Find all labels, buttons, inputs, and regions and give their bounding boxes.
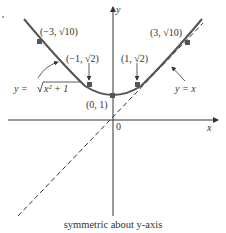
point-3 <box>185 40 190 45</box>
caption: symmetric about y-axis <box>64 219 163 230</box>
origin-label: 0 <box>116 121 121 132</box>
graph-diagram: (−3, √10) (−1, √2) (0, 1) (1, √2) (3, √1… <box>0 0 226 233</box>
curve-eq-lhs: y = <box>13 83 28 94</box>
pointer-line-eq <box>172 67 185 81</box>
curve-eq-rad: x² + 1 <box>43 83 68 94</box>
label-p5: (3, √10) <box>150 27 182 39</box>
y-axis-label: y <box>115 4 121 15</box>
label-p3: (0, 1) <box>86 99 108 111</box>
pointer-curve-eq <box>38 62 58 78</box>
label-p4: (1, √2) <box>121 53 148 65</box>
point-neg1 <box>87 82 92 87</box>
label-p2: (−1, √2) <box>66 53 99 65</box>
point-1 <box>135 82 140 87</box>
line-eq: y = x <box>174 83 196 94</box>
label-p1: (−3, √10) <box>40 26 78 38</box>
point-0 <box>110 93 115 98</box>
point-neg3 <box>37 39 42 44</box>
stray-dot <box>2 16 4 18</box>
x-axis-label: x <box>206 122 212 133</box>
